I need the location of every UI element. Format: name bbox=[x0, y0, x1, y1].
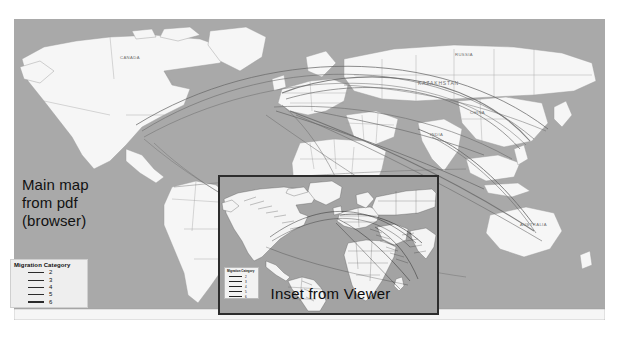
map-label-india: INDIA bbox=[430, 132, 443, 137]
legend-entry-swatch bbox=[28, 287, 44, 288]
map-label-russia: RUSSIA bbox=[455, 52, 473, 57]
annotation-main-line-2: from pdf bbox=[22, 194, 172, 212]
annotation-inset-caption: Inset from Viewer bbox=[220, 285, 439, 302]
legend-entry-row: 3 bbox=[14, 276, 84, 283]
screenshot-root: KAZAKHSTAN RUSSIA CHINA INDIA AUSTRALIA … bbox=[0, 0, 618, 340]
legend-entry-label: 5 bbox=[49, 291, 52, 298]
legend-entry-row: 6 bbox=[14, 299, 84, 306]
legend-rows: 23456 bbox=[14, 269, 84, 306]
legend-entry-swatch bbox=[28, 294, 44, 295]
inset-legend-entry-swatch bbox=[229, 276, 242, 277]
map-label-canada: CANADA bbox=[120, 55, 140, 60]
inset-map-frame: Migration Category 23456 Inset from View… bbox=[218, 175, 439, 315]
legend-entry-label: 6 bbox=[49, 299, 52, 306]
legend-entry-row: 5 bbox=[14, 291, 84, 298]
legend-entry-swatch bbox=[28, 272, 44, 273]
map-label-kazakhstan: KAZAKHSTAN bbox=[418, 80, 459, 86]
inset-legend-entry-swatch bbox=[229, 281, 242, 282]
legend-entry-swatch bbox=[28, 280, 44, 281]
legend-entry-label: 2 bbox=[49, 269, 52, 276]
annotation-main-line-3: (browser) bbox=[22, 212, 172, 230]
map-label-china: CHINA bbox=[470, 110, 485, 115]
legend-title: Migration Category bbox=[14, 262, 84, 268]
annotation-main-line-1: Main map bbox=[22, 176, 172, 194]
map-label-australia: AUSTRALIA bbox=[520, 222, 547, 227]
legend-entry-row: 4 bbox=[14, 284, 84, 291]
legend-entry-label: 4 bbox=[49, 284, 52, 291]
legend-entry-row: 2 bbox=[14, 269, 84, 276]
legend-migration-category: Migration Category 23456 bbox=[10, 259, 88, 308]
inset-legend-entry-label: 2 bbox=[245, 275, 247, 279]
annotation-main-map: Main map from pdf (browser) bbox=[22, 176, 172, 230]
legend-entry-swatch bbox=[28, 301, 44, 303]
legend-entry-label: 3 bbox=[49, 277, 52, 284]
inset-legend-entry-label: 3 bbox=[245, 280, 247, 284]
inset-legend-title: Migration Category bbox=[227, 269, 256, 273]
